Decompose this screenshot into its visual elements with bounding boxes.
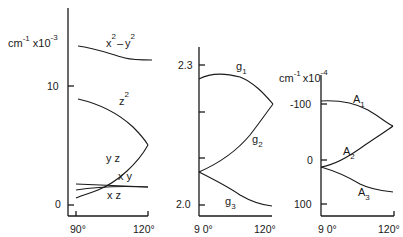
curve-g3: [199, 172, 272, 206]
curve-a3: [321, 167, 393, 192]
figure: cm-1x10-3 10 0 90° 120° x2–y2 z2 y z x y…: [0, 0, 403, 237]
right-panel: cm-1x10-4 -100 0 100 9 0° 120° A1 A2 A3: [279, 68, 400, 235]
label-x2-y2: x2–y2: [106, 32, 136, 49]
label-xy: x y: [118, 170, 133, 182]
curve-z2: [78, 99, 148, 145]
left-ytick-label-10: 10: [47, 80, 59, 92]
right-xtick-label-120: 120°: [378, 223, 400, 235]
label-g1: g1: [236, 60, 247, 76]
label-xz: x z: [107, 189, 121, 201]
middle-ytick-label-2.3: 2.3: [178, 59, 193, 71]
label-g2: g2: [252, 133, 263, 149]
right-ytick-label-0: 0: [307, 154, 313, 166]
curve-g2: [199, 104, 273, 172]
left-xtick-label-90: 90°: [70, 223, 86, 235]
label-z2: z2: [119, 90, 130, 107]
label-g3: g3: [225, 195, 236, 211]
curve-g1: [199, 74, 273, 104]
label-yz: y z: [106, 152, 120, 164]
left-ytick-label-0: 0: [55, 198, 61, 210]
middle-xtick-label-120: 120°: [254, 223, 276, 235]
middle-ytick-label-2.0: 2.0: [176, 198, 191, 210]
left-ylabel: cm-1x10-3: [8, 33, 58, 49]
left-panel: cm-1x10-3 10 0 90° 120° x2–y2 z2 y z x y…: [8, 8, 155, 235]
curve-a2: [321, 126, 393, 167]
label-a3: A3: [358, 186, 370, 202]
right-xtick-label-90: 9 0°: [318, 223, 337, 235]
left-xtick-label-120: 120°: [133, 223, 155, 235]
middle-panel: 2.3 2.0 9 0° 120° g1 g2 g3: [176, 47, 276, 235]
middle-xtick-label-90: 9 0°: [194, 223, 213, 235]
curve-x2-y2: [78, 46, 152, 60]
right-ytick-label-m100: -100: [290, 98, 311, 110]
right-ytick-label-100: 100: [294, 198, 312, 210]
